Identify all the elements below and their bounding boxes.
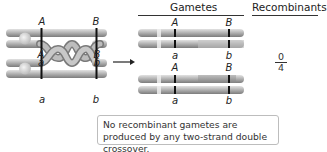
allele-label-b-mid: b xyxy=(94,58,100,68)
allele-label-a-bottom: a xyxy=(39,95,45,105)
crossover-strands xyxy=(40,44,100,63)
gamete4-label-b: b xyxy=(226,96,232,106)
allele-label-B-top: B xyxy=(93,17,100,27)
gamete2-label-a: a xyxy=(172,51,178,61)
gametes-header-rule xyxy=(138,15,244,16)
gamete1-label-B: B xyxy=(226,18,233,28)
gamete4-label-a: a xyxy=(172,96,178,106)
allele-label-a-mid: a xyxy=(38,58,44,68)
arrow-icon xyxy=(113,59,135,65)
gametes-header: Gametes xyxy=(170,1,217,13)
gamete2-label-b: b xyxy=(226,51,232,61)
gene-bands-gametes xyxy=(174,29,230,94)
gamete3-label-A: A xyxy=(172,63,179,73)
recombinants-header: Recombinants xyxy=(252,1,327,13)
recombinant-fraction: 0 4 xyxy=(275,52,287,73)
gamete3-label-B: B xyxy=(226,63,233,73)
recombinants-header-rule xyxy=(252,15,318,16)
gamete1-label-A: A xyxy=(172,18,179,28)
fraction-denominator: 4 xyxy=(278,62,284,73)
allele-label-b-bottom: b xyxy=(93,95,99,105)
allele-label-A-top: A xyxy=(39,17,46,27)
caption-box: No recombinant gametes are produced by a… xyxy=(97,115,279,145)
